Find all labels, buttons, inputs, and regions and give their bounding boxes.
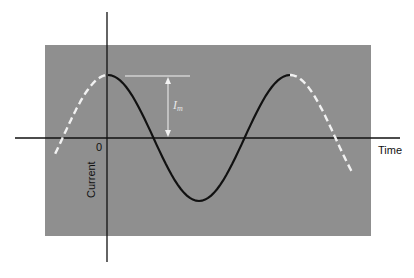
x-axis-label: Time xyxy=(378,144,402,156)
plot-background xyxy=(45,45,371,236)
origin-label: 0 xyxy=(96,141,102,153)
y-axis-label: Current xyxy=(85,161,97,198)
current-waveform-figure: Im 0 Time Current xyxy=(0,0,414,278)
